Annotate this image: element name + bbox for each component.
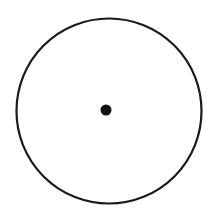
center-point [101, 105, 112, 116]
circle-diagram [0, 0, 209, 214]
